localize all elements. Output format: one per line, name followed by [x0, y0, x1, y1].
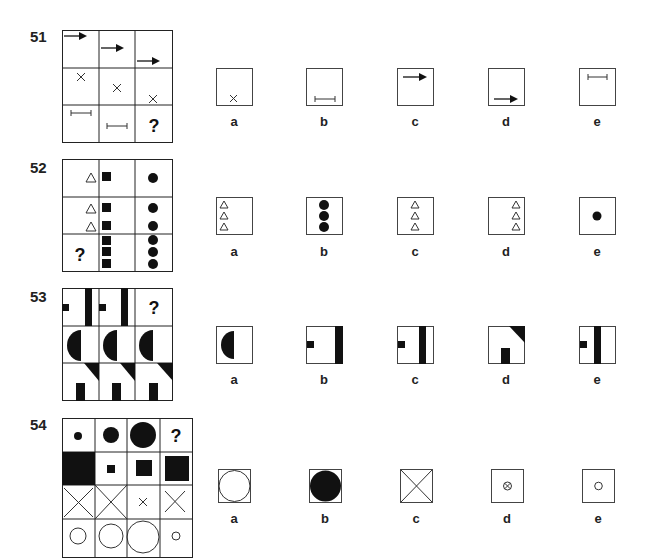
option-51-e[interactable]: [579, 68, 616, 106]
option-label: d: [486, 114, 526, 129]
option-53-b[interactable]: [306, 326, 343, 364]
option-label: e: [578, 511, 618, 526]
puzzle-grid-51: ?: [62, 30, 173, 143]
question-number-52: 52: [30, 159, 47, 176]
option-54-a[interactable]: [218, 469, 251, 503]
arrow-icon: [137, 57, 160, 65]
triangle-block-icon: [76, 363, 173, 401]
option-54-e[interactable]: [582, 469, 615, 503]
circle-icon: [148, 173, 158, 269]
option-52-d[interactable]: [488, 197, 525, 235]
option-label: d: [487, 511, 527, 526]
open-circle-icon: [70, 521, 180, 553]
option-label: e: [577, 372, 617, 387]
option-label: c: [396, 511, 436, 526]
option-53-c[interactable]: [397, 326, 434, 364]
option-label: c: [395, 244, 435, 259]
question-mark: ?: [171, 426, 182, 446]
option-52-b[interactable]: [306, 197, 343, 235]
option-51-d[interactable]: [488, 68, 525, 106]
option-label: d: [486, 244, 526, 259]
option-53-d[interactable]: [488, 326, 525, 364]
option-label: b: [304, 372, 344, 387]
half-circle-icon: [67, 330, 153, 361]
option-52-c[interactable]: [397, 197, 434, 235]
option-54-d[interactable]: [491, 469, 524, 503]
option-label: b: [304, 114, 344, 129]
x-mark-icon: [64, 485, 185, 519]
option-label: e: [577, 244, 617, 259]
square-icon: [102, 172, 111, 268]
option-52-e[interactable]: [579, 197, 616, 235]
puzzle-grid-54: ?: [62, 418, 193, 558]
filled-square-icon: [62, 452, 189, 485]
triangle-icon: [86, 173, 96, 231]
option-51-b[interactable]: [306, 68, 343, 106]
question-number-51: 51: [30, 28, 47, 45]
option-label: d: [486, 372, 526, 387]
bar-icon: [107, 123, 127, 129]
option-51-a[interactable]: [216, 68, 253, 106]
option-label: b: [304, 244, 344, 259]
option-label: a: [214, 244, 254, 259]
option-label: a: [214, 114, 254, 129]
option-label: a: [214, 511, 254, 526]
option-label: c: [395, 114, 435, 129]
option-label: b: [305, 511, 345, 526]
option-label: a: [214, 372, 254, 387]
question-mark: ?: [75, 245, 86, 265]
question-number-54: 54: [30, 416, 47, 433]
x-mark-icon: [77, 73, 85, 81]
puzzle-grid-52: ?: [62, 159, 173, 272]
x-mark-icon: [113, 84, 121, 92]
puzzle-grid-53: ?: [62, 288, 173, 401]
square-bar-icon: [62, 288, 128, 326]
arrow-icon: [64, 32, 87, 40]
filled-circle-icon: [74, 422, 156, 448]
arrow-icon: [101, 44, 124, 52]
option-53-e[interactable]: [579, 326, 616, 364]
question-number-53: 53: [30, 288, 47, 305]
option-54-c[interactable]: [400, 469, 433, 503]
option-51-c[interactable]: [397, 68, 434, 106]
option-label: c: [395, 372, 435, 387]
option-54-b[interactable]: [309, 469, 342, 503]
question-mark: ?: [149, 298, 160, 318]
option-52-a[interactable]: [216, 197, 253, 235]
bar-icon: [71, 110, 91, 116]
option-53-a[interactable]: [216, 326, 253, 364]
question-mark: ?: [149, 116, 160, 136]
x-mark-icon: [149, 95, 157, 103]
option-label: e: [577, 114, 617, 129]
